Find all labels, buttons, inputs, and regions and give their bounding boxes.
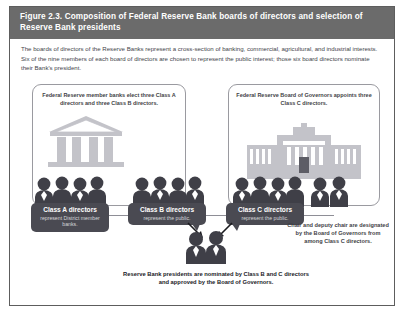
diagram-canvas: Federal Reserve member banks elect three…: [10, 75, 394, 305]
connector-b-to-c: [206, 215, 226, 216]
people-group-reserve-bank-presidents: [185, 230, 227, 264]
classical-bank-building-icon: [48, 115, 124, 169]
panel-board-of-governors-caption: Federal Reserve Board of Governors appoi…: [229, 91, 379, 107]
note-president-nomination: Reserve Bank presidents are nominated by…: [118, 270, 314, 287]
figure-title: Figure 2.3. Composition of Federal Reser…: [20, 11, 384, 34]
label-class-c-title: Class C directors: [230, 206, 300, 214]
note-chair-deputy-chair: Chair and deputy chair are designated by…: [286, 221, 390, 246]
figure-intro-text: The boards of directors of the Reserve B…: [10, 39, 394, 78]
figure-container: Figure 2.3. Composition of Federal Reser…: [9, 6, 395, 306]
label-class-a-directors: Class A directors represent District mem…: [31, 203, 109, 232]
label-class-a-subtitle: represent District member banks.: [35, 215, 105, 228]
panel-member-banks-caption: Federal Reserve member banks elect three…: [33, 91, 185, 107]
figure-header: Figure 2.3. Composition of Federal Reser…: [10, 7, 394, 39]
label-class-a-title: Class A directors: [35, 206, 105, 214]
eccles-building-icon: [247, 123, 361, 179]
connector-a-to-b: [109, 215, 128, 216]
label-class-b-title: Class B directors: [132, 206, 202, 214]
connector-c-to-chair-note: [304, 215, 334, 216]
people-group-chair-deputy: [310, 175, 350, 207]
